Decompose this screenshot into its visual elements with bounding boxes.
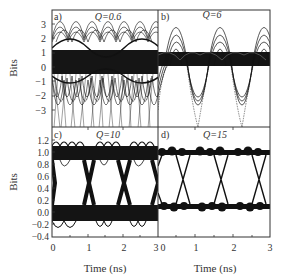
- top-y-tick-labels: 3 2 1 0 −1 −2 −3: [35, 19, 46, 116]
- svg-text:3: 3: [154, 242, 159, 253]
- svg-text:0: 0: [161, 242, 166, 253]
- x-axis-label-left: Time (ns): [84, 262, 127, 275]
- svg-text:0: 0: [41, 62, 46, 73]
- svg-text:2: 2: [232, 242, 237, 253]
- eye-diagram-figure: Bits Bits 3 2 1 0 −1 −2 −3 1.2 1.0 0.8 0…: [0, 0, 282, 279]
- svg-text:2: 2: [41, 33, 46, 44]
- y-axis-label-top: Bits: [7, 59, 19, 77]
- svg-text:1: 1: [87, 242, 92, 253]
- bottom-y-tick-labels: 1.2 1.0 0.8 0.6 0.4 0.2 0.0 −0.2 −0.4: [32, 136, 49, 242]
- panel-c-labels: c) Q=10: [54, 129, 120, 141]
- svg-text:2: 2: [122, 242, 127, 253]
- svg-text:0.4: 0.4: [37, 184, 49, 194]
- x-tick-labels: 0 1 2 3 0 1 2 3: [51, 242, 273, 253]
- panel-b-title: Q=6: [203, 9, 222, 20]
- svg-text:−0.4: −0.4: [32, 232, 49, 242]
- svg-text:0.8: 0.8: [37, 160, 49, 170]
- svg-text:0.6: 0.6: [37, 172, 49, 182]
- panel-a-title: Q=0.6: [95, 11, 121, 22]
- panel-a-dense-band: [52, 50, 158, 74]
- svg-text:1.2: 1.2: [37, 136, 49, 146]
- panel-d-traces: [158, 147, 270, 212]
- panel-a-label: a): [54, 11, 62, 23]
- x-axis-label-right: Time (ns): [194, 262, 237, 275]
- panel-d-label: d): [161, 129, 169, 141]
- panel-b-label: b): [161, 11, 169, 23]
- panel-a-labels: a) Q=0.6: [54, 11, 121, 23]
- y-axis-label-bottom: Bits: [7, 173, 19, 191]
- panel-d-title: Q=15: [203, 129, 227, 140]
- panel-b-labels: b) Q=6: [161, 9, 221, 23]
- svg-text:−1: −1: [35, 76, 46, 87]
- panel-c-label: c): [54, 129, 62, 141]
- svg-text:−3: −3: [35, 105, 46, 116]
- panel-d-labels: d) Q=15: [161, 129, 227, 141]
- panel-a-traces: [52, 22, 164, 129]
- panel-c-lower-rail: [52, 205, 158, 221]
- svg-text:−2: −2: [35, 90, 46, 101]
- panel-c-upper-rail: [52, 146, 158, 160]
- svg-text:1: 1: [41, 47, 46, 58]
- panel-c-traces: [52, 142, 158, 228]
- panel-c-title: Q=10: [96, 129, 120, 140]
- svg-text:3: 3: [41, 19, 46, 30]
- svg-text:1.0: 1.0: [37, 148, 49, 158]
- svg-text:3: 3: [268, 242, 273, 253]
- svg-text:1: 1: [194, 242, 199, 253]
- svg-text:0: 0: [51, 242, 56, 253]
- panel-b-traces: [150, 28, 275, 131]
- svg-text:0.0: 0.0: [37, 208, 49, 218]
- svg-text:−0.2: −0.2: [32, 220, 49, 230]
- svg-text:0.2: 0.2: [37, 196, 49, 206]
